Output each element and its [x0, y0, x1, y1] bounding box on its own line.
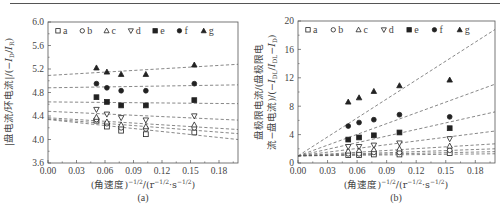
marker-filled-triangle-up-icon	[201, 28, 206, 33]
marker-open-triangle-down-icon	[118, 116, 124, 121]
marker-open-triangle-down-icon	[381, 28, 386, 33]
marker-open-square-icon	[143, 132, 148, 137]
x-tick-label: 0.06	[349, 166, 366, 176]
y-axis-title-b-line2: 流−盘电流)/(−IDL/IDL−ID)	[266, 34, 278, 149]
x-axis-title-a: (角速度)−1/2/(r−1/2·s−1/2)	[91, 178, 196, 190]
marker-open-circle-icon	[331, 28, 335, 32]
marker-open-square-icon	[56, 29, 60, 33]
legend-item-d: d	[381, 24, 394, 35]
legend-item-e: e	[153, 25, 165, 36]
marker-filled-circle-icon	[447, 114, 452, 119]
y-tick-label: 20	[285, 16, 295, 26]
marker-open-circle-icon	[447, 148, 452, 153]
fit-line-b	[48, 119, 238, 134]
legend-label: d	[136, 25, 141, 36]
marker-filled-square-icon	[371, 133, 376, 138]
legend-label: c	[112, 25, 117, 36]
legend-label: e	[160, 25, 165, 36]
legend-label: c	[364, 24, 369, 35]
series-d	[94, 107, 197, 123]
marker-filled-triangle-up-icon	[118, 71, 124, 76]
marker-open-triangle-up-icon	[143, 124, 149, 129]
data-points-a	[94, 62, 197, 137]
marker-filled-circle-icon	[105, 85, 110, 90]
series-g	[94, 62, 197, 76]
x-tick-label: 0.09	[125, 166, 142, 176]
fit-line-d	[48, 111, 238, 120]
marker-open-triangle-down-icon	[447, 137, 453, 142]
fit-line-f	[298, 112, 495, 156]
legend-label: a	[313, 24, 318, 35]
marker-filled-circle-icon	[357, 120, 362, 125]
legend-item-b: b	[331, 24, 343, 35]
marker-open-triangle-up-icon	[447, 143, 453, 148]
marker-open-triangle-down-icon	[356, 145, 362, 150]
caption-a: (a)	[137, 192, 148, 204]
marker-filled-square-icon	[397, 130, 402, 135]
legend-label: b	[338, 24, 343, 35]
marker-open-triangle-down-icon	[143, 118, 149, 123]
marker-filled-circle-icon	[94, 81, 99, 86]
y-tick-label: 6.0	[32, 17, 44, 27]
marker-filled-square-icon	[94, 95, 99, 100]
legend-label: g	[209, 25, 214, 36]
fit-line-g	[48, 64, 238, 75]
fit-line-g	[298, 84, 495, 156]
legend-b: abcdefg	[306, 24, 470, 35]
fit-lines-b	[298, 30, 495, 156]
legend-item-g: g	[457, 24, 470, 35]
caption-b: (b)	[390, 192, 402, 204]
marker-filled-circle-icon	[346, 124, 351, 129]
fit-line-c	[48, 118, 238, 130]
marker-filled-triangle-up-icon	[447, 77, 453, 82]
legend-label: b	[87, 25, 92, 36]
marker-filled-circle-icon	[371, 117, 376, 122]
y-tick-label: 12	[285, 73, 295, 83]
marker-filled-triangle-up-icon	[356, 95, 362, 100]
y-tick-label: 5.2	[32, 64, 44, 74]
legend-item-a: a	[56, 25, 68, 36]
series-g	[345, 77, 452, 104]
marker-filled-square-icon	[119, 103, 124, 108]
marker-open-triangle-down-icon	[345, 145, 351, 150]
marker-filled-triangle-up-icon	[143, 71, 149, 76]
marker-open-circle-icon	[80, 29, 84, 33]
x-tick-label: 0.09	[378, 166, 395, 176]
chart-panel-b: 0.000.030.060.090.120.150.18048121620 ab…	[253, 16, 495, 204]
marker-open-triangle-up-icon	[356, 27, 361, 32]
marker-open-triangle-down-icon	[371, 143, 377, 148]
marker-open-triangle-up-icon	[192, 122, 198, 127]
legend-item-d: d	[128, 25, 141, 36]
y-tick-label: 4.4	[32, 111, 44, 121]
marker-filled-square-icon	[407, 28, 411, 32]
axis-ticks-a: 0.000.030.060.090.120.150.183.64.04.44.8…	[32, 17, 233, 176]
chart-panel-a: 0.000.030.060.090.120.150.183.64.04.44.8…	[3, 17, 238, 204]
plot-frame-b	[298, 21, 495, 163]
series-e	[346, 126, 452, 142]
marker-filled-circle-icon	[177, 29, 181, 33]
marker-filled-triangle-up-icon	[397, 83, 403, 88]
marker-open-triangle-up-icon	[104, 28, 109, 33]
marker-filled-square-icon	[357, 135, 362, 140]
data-points-b	[345, 77, 452, 158]
marker-filled-circle-icon	[119, 88, 124, 93]
marker-filled-circle-icon	[432, 28, 436, 32]
x-tick-label: 0.15	[437, 166, 454, 176]
marker-filled-triangle-up-icon	[371, 88, 377, 93]
x-tick-label: 0.03	[319, 166, 336, 176]
fit-line-f	[48, 85, 238, 88]
y-tick-label: 4	[289, 130, 294, 140]
y-tick-label: 4.0	[32, 135, 44, 145]
y-tick-label: 16	[285, 45, 295, 55]
legend-item-f: f	[177, 25, 188, 36]
x-tick-label: 0.18	[211, 166, 228, 176]
marker-filled-square-icon	[346, 137, 351, 142]
x-tick-label: 0.06	[97, 166, 114, 176]
plot-frame-a	[48, 22, 238, 163]
legend-item-f: f	[432, 24, 443, 35]
legend-item-g: g	[201, 25, 214, 36]
marker-filled-square-icon	[105, 100, 110, 105]
marker-filled-triangle-up-icon	[345, 99, 351, 104]
legend-label: g	[465, 24, 470, 35]
marker-filled-triangle-up-icon	[94, 65, 100, 70]
